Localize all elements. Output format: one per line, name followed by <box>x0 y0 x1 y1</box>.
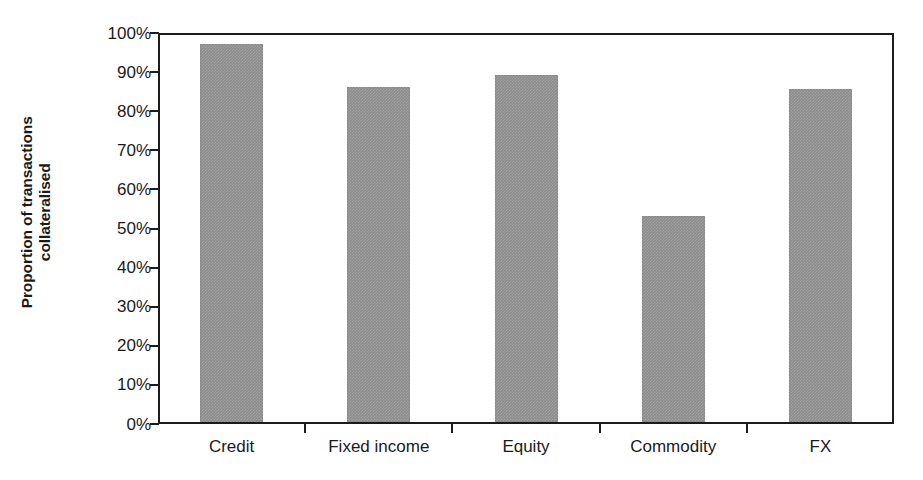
bar-fixed-income <box>347 87 410 422</box>
bar-commodity <box>642 216 705 422</box>
y-axis-title-line-1: Proportion of transactions <box>18 116 36 308</box>
chart-screenshot: Proportion of transactions collateralise… <box>0 0 923 480</box>
x-tick-mark <box>599 424 601 433</box>
x-tick-mark <box>746 424 748 433</box>
x-tick-mark <box>304 424 306 433</box>
y-axis-title-line-2: collateralised <box>36 116 54 308</box>
bar-fx <box>789 89 852 422</box>
y-axis-title: Proportion of transactions collateralise… <box>0 0 72 424</box>
bar-equity <box>495 75 558 422</box>
x-axis-label-fx: FX <box>730 437 910 457</box>
x-tick-mark <box>451 424 453 433</box>
bar-credit <box>200 44 263 422</box>
plot-area <box>158 33 894 424</box>
